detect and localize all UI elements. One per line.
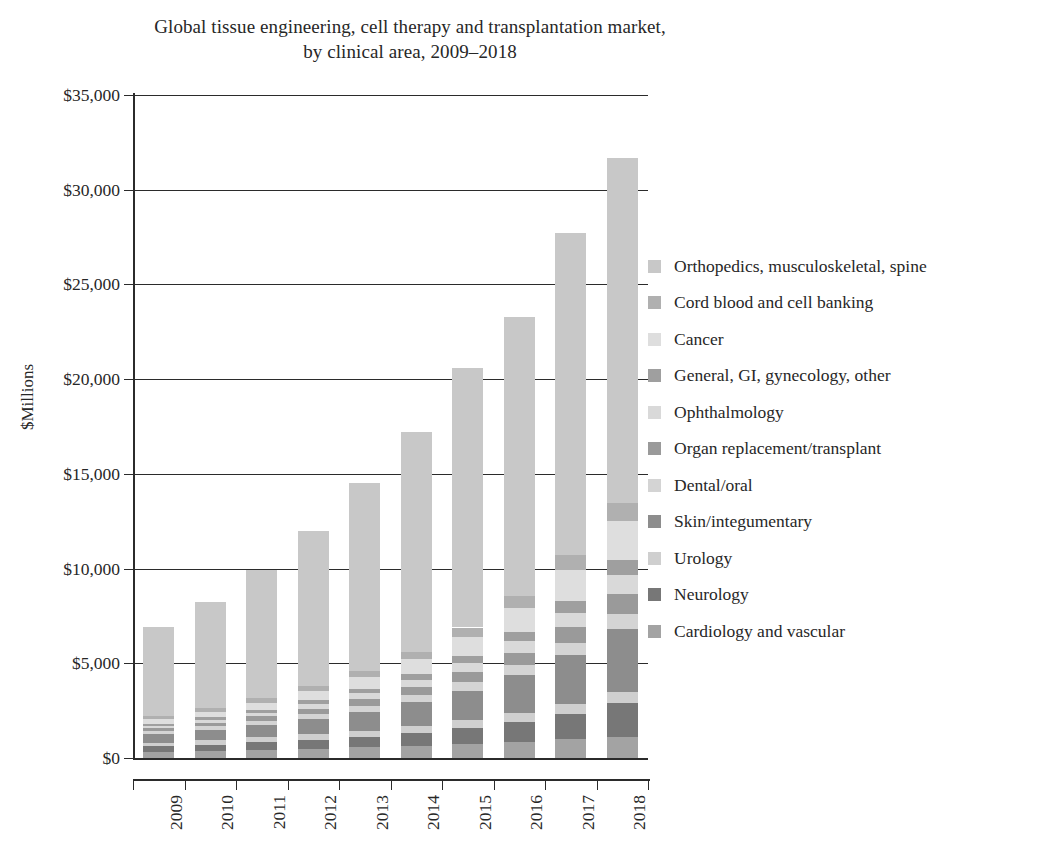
bar-segment[interactable] — [195, 602, 226, 709]
bar-segment[interactable] — [195, 745, 226, 751]
bar-segment[interactable] — [401, 726, 432, 733]
bar-segment[interactable] — [143, 724, 174, 726]
bar-segment[interactable] — [143, 716, 174, 719]
bar-segment[interactable] — [246, 737, 277, 742]
bar-segment[interactable] — [349, 689, 380, 694]
bar-segment[interactable] — [349, 731, 380, 737]
bar-segment[interactable] — [452, 744, 483, 758]
bar-2014[interactable] — [401, 432, 432, 758]
bar-segment[interactable] — [555, 601, 586, 613]
bar-segment[interactable] — [401, 746, 432, 758]
bar-segment[interactable] — [298, 700, 329, 704]
bar-segment[interactable] — [452, 368, 483, 628]
bar-segment[interactable] — [504, 665, 535, 675]
bar-segment[interactable] — [246, 710, 277, 713]
bar-segment[interactable] — [504, 317, 535, 596]
bar-2016[interactable] — [504, 317, 535, 758]
bar-segment[interactable] — [401, 652, 432, 660]
bar-segment[interactable] — [143, 743, 174, 747]
bar-segment[interactable] — [298, 734, 329, 739]
bar-segment[interactable] — [452, 663, 483, 672]
bar-segment[interactable] — [246, 742, 277, 750]
bar-segment[interactable] — [298, 749, 329, 758]
bar-segment[interactable] — [143, 734, 174, 743]
bar-segment[interactable] — [504, 608, 535, 632]
bar-segment[interactable] — [607, 158, 638, 503]
bar-segment[interactable] — [504, 653, 535, 665]
bar-segment[interactable] — [504, 722, 535, 742]
bar-segment[interactable] — [607, 521, 638, 561]
bar-segment[interactable] — [555, 739, 586, 758]
bar-segment[interactable] — [246, 750, 277, 758]
bar-segment[interactable] — [452, 637, 483, 656]
bar-segment[interactable] — [555, 613, 586, 628]
bar-segment[interactable] — [195, 712, 226, 717]
bar-segment[interactable] — [504, 641, 535, 653]
bar-segment[interactable] — [298, 691, 329, 700]
bar-segment[interactable] — [607, 560, 638, 575]
bar-2017[interactable] — [555, 233, 586, 758]
bar-segment[interactable] — [246, 570, 277, 698]
bar-segment[interactable] — [349, 693, 380, 699]
bar-segment[interactable] — [401, 680, 432, 687]
bar-segment[interactable] — [452, 720, 483, 728]
bar-segment[interactable] — [504, 675, 535, 713]
legend-item[interactable]: Ophthalmology — [648, 394, 927, 431]
legend-item[interactable]: Urology — [648, 540, 927, 577]
bar-segment[interactable] — [246, 716, 277, 720]
bar-segment[interactable] — [401, 695, 432, 702]
legend-item[interactable]: Cardiology and vascular — [648, 613, 927, 650]
bar-segment[interactable] — [555, 570, 586, 601]
bar-segment[interactable] — [349, 677, 380, 688]
bar-segment[interactable] — [504, 713, 535, 722]
bar-segment[interactable] — [504, 596, 535, 608]
bar-segment[interactable] — [555, 233, 586, 555]
bar-segment[interactable] — [195, 751, 226, 758]
bar-segment[interactable] — [195, 730, 226, 740]
bar-segment[interactable] — [298, 740, 329, 749]
bar-segment[interactable] — [401, 432, 432, 651]
bar-segment[interactable] — [452, 672, 483, 682]
bar-segment[interactable] — [143, 719, 174, 723]
bar-segment[interactable] — [298, 714, 329, 719]
legend-item[interactable]: Orthopedics, musculoskeletal, spine — [648, 248, 927, 285]
bar-segment[interactable] — [195, 740, 226, 744]
bar-segment[interactable] — [607, 614, 638, 629]
bar-segment[interactable] — [555, 655, 586, 704]
bar-segment[interactable] — [298, 704, 329, 709]
bar-segment[interactable] — [143, 728, 174, 731]
bar-segment[interactable] — [452, 728, 483, 744]
bar-segment[interactable] — [607, 594, 638, 614]
bar-segment[interactable] — [607, 575, 638, 594]
bar-segment[interactable] — [143, 746, 174, 751]
bar-segment[interactable] — [555, 714, 586, 740]
legend-item[interactable]: Organ replacement/transplant — [648, 431, 927, 468]
bar-segment[interactable] — [143, 752, 174, 758]
bar-segment[interactable] — [246, 698, 277, 702]
legend-item[interactable]: Dental/oral — [648, 467, 927, 504]
bar-2011[interactable] — [246, 570, 277, 758]
bar-segment[interactable] — [401, 702, 432, 726]
bar-segment[interactable] — [349, 483, 380, 671]
bar-2010[interactable] — [195, 602, 226, 758]
bar-2013[interactable] — [349, 483, 380, 758]
bar-segment[interactable] — [298, 719, 329, 734]
bar-segment[interactable] — [555, 643, 586, 655]
bar-segment[interactable] — [607, 703, 638, 737]
bar-segment[interactable] — [555, 627, 586, 643]
bar-segment[interactable] — [349, 712, 380, 731]
bar-segment[interactable] — [607, 737, 638, 758]
bar-segment[interactable] — [195, 726, 226, 730]
legend-item[interactable]: Skin/integumentary — [648, 504, 927, 541]
bar-segment[interactable] — [349, 706, 380, 712]
bar-segment[interactable] — [195, 717, 226, 719]
bar-segment[interactable] — [195, 720, 226, 723]
bar-segment[interactable] — [143, 731, 174, 734]
bar-segment[interactable] — [607, 629, 638, 692]
bar-segment[interactable] — [246, 713, 277, 717]
legend-item[interactable]: Neurology — [648, 577, 927, 614]
bar-2015[interactable] — [452, 368, 483, 758]
bar-segment[interactable] — [298, 531, 329, 687]
bar-2009[interactable] — [143, 627, 174, 758]
bar-2012[interactable] — [298, 531, 329, 758]
